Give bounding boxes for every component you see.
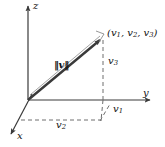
vector-diagram: z y x v3 v1 v2 (v1, v2, v3) ‖v‖ — [0, 0, 165, 147]
v2-component-label: v2 — [56, 120, 66, 131]
vector-magnitude-label: ‖v‖ — [54, 60, 69, 70]
v1-dashed-line — [100, 104, 110, 121]
x-axis-label: x — [17, 131, 23, 141]
point-mid-2: , v — [137, 27, 149, 38]
point-coordinates-label: (v1, v2, v3) — [107, 28, 157, 39]
norm-close-bars: ‖ — [64, 59, 69, 70]
v3-subscript: 3 — [114, 59, 118, 67]
diagram-canvas — [0, 0, 165, 147]
v2-subscript: 2 — [62, 123, 66, 131]
point-close: ) — [154, 27, 158, 38]
vector-arrow — [28, 40, 100, 100]
v3-component-label: v3 — [108, 56, 118, 67]
point-mid-1: , v — [121, 27, 133, 38]
v1-subscript: 1 — [119, 107, 123, 115]
z-axis-label: z — [33, 1, 38, 11]
v1-component-label: v1 — [113, 104, 123, 115]
point-open: (v — [107, 27, 117, 38]
y-axis-label: y — [143, 88, 149, 98]
